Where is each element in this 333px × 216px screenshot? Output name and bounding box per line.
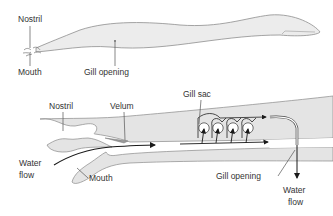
label-water-flow-in-line1: Water: [19, 159, 41, 168]
label-gill-sac: Gill sac: [183, 90, 211, 99]
pharynx-flow-arrow: [180, 142, 268, 144]
label-mouth-top: Mouth: [18, 68, 42, 77]
label-nostril-detail: Nostril: [49, 102, 73, 111]
label-nostril-top: Nostril: [18, 15, 42, 24]
gill-opening-dot-top: [114, 40, 116, 42]
label-mouth-detail: Mouth: [89, 174, 113, 183]
hagfish-body-outline: [36, 15, 320, 52]
label-water-flow-out-line2: flow: [288, 198, 303, 207]
label-gill-opening-top: Gill opening: [84, 68, 129, 77]
head-section-palate: [47, 138, 112, 152]
label-water-flow-out-line1: Water: [283, 186, 305, 195]
label-gill-opening-detail: Gill opening: [216, 172, 261, 181]
label-water-flow-in-line2: flow: [19, 171, 34, 180]
label-velum: Velum: [110, 102, 134, 111]
